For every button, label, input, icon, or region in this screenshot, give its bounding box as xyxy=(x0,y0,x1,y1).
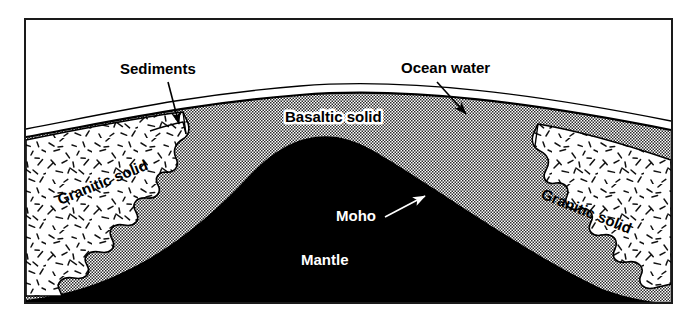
moho-label: Moho xyxy=(336,207,376,224)
basaltic-solid-label: Basaltic solid xyxy=(285,108,382,125)
cross-section-svg: SedimentsOcean waterBasaltic solidBasalt… xyxy=(0,0,696,321)
sediments-label: Sediments xyxy=(120,60,196,77)
ocean-water-label: Ocean water xyxy=(401,59,490,76)
cross-section-figure: SedimentsOcean waterBasaltic solidBasalt… xyxy=(0,0,696,321)
mantle-label: Mantle xyxy=(301,251,349,268)
